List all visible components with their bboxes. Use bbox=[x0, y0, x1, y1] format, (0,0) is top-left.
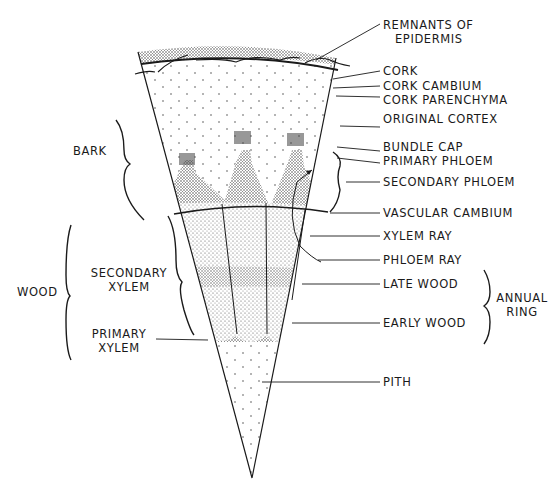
label-annual-ring: ANNUAL RING bbox=[492, 291, 552, 319]
label-secondary-xylem: SECONDARY XYLEM bbox=[84, 266, 174, 294]
bundle-cap-1 bbox=[179, 153, 195, 165]
label-line: EPIDERMIS bbox=[383, 32, 474, 46]
label-primary-xylem: PRIMARY XYLEM bbox=[84, 327, 154, 355]
wood-brace bbox=[66, 225, 71, 360]
annual-ring-brace bbox=[484, 270, 490, 344]
label-original-cortex: ORIGINAL CORTEX bbox=[383, 112, 498, 126]
label-late-wood: LATE WOOD bbox=[383, 277, 458, 291]
secondary-phloem-brace bbox=[330, 152, 340, 212]
bundle-cap-4 bbox=[333, 141, 343, 152]
label-primary-phloem: PRIMARY PHLOEM bbox=[383, 154, 493, 168]
label-line: SECONDARY bbox=[84, 266, 174, 280]
label-early-wood: EARLY WOOD bbox=[383, 316, 466, 330]
label-remnants-of-epidermis: REMNANTS OF EPIDERMIS bbox=[383, 18, 474, 46]
bark-brace bbox=[116, 120, 144, 220]
label-line: RING bbox=[492, 305, 552, 319]
label-xylem-ray: XYLEM RAY bbox=[383, 229, 452, 243]
label-pith: PITH bbox=[383, 375, 411, 389]
stem-wedge-diagram bbox=[0, 0, 558, 494]
label-line: ANNUAL bbox=[492, 291, 552, 305]
bundle-cap-3 bbox=[287, 133, 304, 146]
label-cork-cambium: CORK CAMBIUM bbox=[383, 79, 482, 93]
label-line: XYLEM bbox=[84, 280, 174, 294]
label-bark: BARK bbox=[73, 144, 107, 158]
label-wood: WOOD bbox=[17, 285, 58, 299]
label-bundle-cap: BUNDLE CAP bbox=[383, 140, 463, 154]
label-phloem-ray: PHLOEM RAY bbox=[383, 253, 462, 267]
label-line: REMNANTS OF bbox=[383, 18, 474, 32]
pith-fill bbox=[100, 342, 360, 482]
label-cork-parenchyma: CORK PARENCHYMA bbox=[383, 93, 508, 107]
bundle-cap-2 bbox=[234, 131, 251, 144]
label-cork: CORK bbox=[383, 64, 418, 78]
label-vascular-cambium: VASCULAR CAMBIUM bbox=[383, 206, 513, 220]
wedge-fill bbox=[100, 30, 360, 482]
label-secondary-phloem: SECONDARY PHLOEM bbox=[383, 175, 515, 189]
label-line: PRIMARY bbox=[84, 327, 154, 341]
label-line: XYLEM bbox=[84, 341, 154, 355]
